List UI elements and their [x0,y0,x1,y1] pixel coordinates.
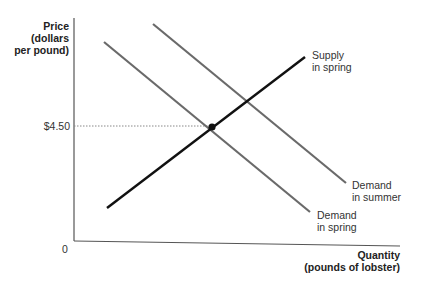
x-axis-label-line: Quantity [280,249,400,261]
series-label-line: Demand [352,179,401,191]
series-label-line: Demand [317,209,357,221]
demand-spring-label: Demand in spring [317,209,357,233]
series-label-line: Supply [312,49,352,61]
x-axis [74,241,400,246]
demand-summer-label: Demand in summer [352,179,401,203]
supply-spring-label: Supply in spring [312,49,352,73]
demand-summer-line [153,24,346,183]
origin-label: 0 [62,243,68,255]
series-label-line: in summer [352,191,401,203]
y-axis-label: Price (dollars per pound) [14,20,69,56]
x-axis-label: Quantity (pounds of lobster) [280,249,400,273]
series-label-line: in spring [317,221,357,233]
equilibrium-point [208,123,215,130]
y-axis-label-line: per pound) [14,44,69,56]
price-tick-label: $4.50 [30,120,70,132]
supply-spring-line [107,57,305,208]
y-axis-label-line: Price [14,20,69,32]
series-label-line: in spring [312,61,352,73]
x-axis-label-line: (pounds of lobster) [280,261,400,273]
y-axis-label-line: (dollars [14,32,69,44]
